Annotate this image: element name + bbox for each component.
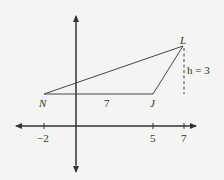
segment-nj-length: 7: [104, 97, 110, 109]
point-l-label: L: [179, 34, 186, 46]
segment-jl: [153, 46, 183, 94]
x-axis: [16, 123, 196, 129]
coordinate-diagram: N J L 7 h = 3 −2 5 7: [0, 0, 224, 180]
segment-nl: [44, 46, 183, 94]
tick-label-5: 5: [150, 132, 156, 144]
tick-label-7: 7: [181, 132, 187, 144]
height-label: h = 3: [187, 64, 210, 76]
point-n-label: N: [38, 97, 47, 109]
triangle-njl: [44, 46, 183, 94]
point-j-label: J: [150, 97, 156, 109]
tick-label-neg2: −2: [37, 132, 49, 144]
